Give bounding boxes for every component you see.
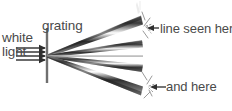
label-and-here: and here bbox=[166, 80, 217, 93]
diffraction-grating-diagram: white light grating line seen here and h… bbox=[0, 0, 232, 111]
viewing-point-marker-lower bbox=[142, 72, 155, 98]
label-light-text: light bbox=[2, 45, 33, 59]
label-line-seen-here: line seen here bbox=[160, 22, 232, 35]
diagram-canvas bbox=[0, 0, 232, 111]
viewing-point-marker-upper bbox=[142, 12, 152, 38]
label-white-light: white light bbox=[2, 31, 33, 59]
scan-artifact bbox=[136, 1, 141, 14]
label-white-text: white bbox=[2, 31, 33, 45]
label-grating: grating bbox=[42, 19, 83, 33]
incoming-ray-arrowheads bbox=[39, 45, 46, 63]
